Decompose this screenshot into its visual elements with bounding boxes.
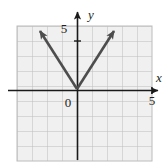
graph-figure: 5 y 0 5 x (0, 0, 168, 164)
x-axis-label: x (155, 70, 162, 85)
grid-area (17, 26, 152, 161)
x-tick-label-5: 5 (149, 93, 156, 108)
coordinate-plane-svg: 5 y 0 5 x (0, 0, 168, 164)
grid (17, 26, 152, 161)
y-tick-label-5: 5 (61, 21, 68, 36)
origin-label: 0 (65, 95, 72, 110)
y-axis-label: y (86, 7, 94, 22)
